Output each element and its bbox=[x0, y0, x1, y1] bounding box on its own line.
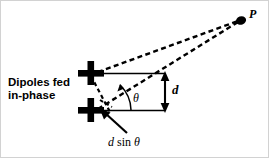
figure-container: Dipoles fed in-phase P d θ d sin θ bbox=[0, 0, 269, 158]
dipole-top bbox=[78, 61, 104, 85]
caption-dipoles-fed-in-phase: Dipoles fed in-phase bbox=[8, 76, 70, 102]
observation-point-P bbox=[235, 15, 248, 26]
label-point-p: P bbox=[249, 8, 256, 21]
label-angle-theta: θ bbox=[133, 92, 139, 105]
dashed-ray-bottom-dipole-to-P bbox=[98, 22, 238, 109]
caption-line-1: Dipoles fed bbox=[8, 76, 70, 89]
spacing-arrow-head-up bbox=[161, 71, 170, 81]
pointer-arrow-to-path-difference bbox=[100, 109, 128, 134]
label-spacing-d: d bbox=[172, 83, 179, 98]
angle-arc-arrowhead bbox=[117, 84, 124, 91]
spacing-arrow-head-down bbox=[161, 103, 170, 113]
path-diff-theta: θ bbox=[134, 135, 140, 149]
path-diff-sin: sin bbox=[117, 135, 131, 149]
double-headed-spacing-arrow bbox=[161, 71, 170, 113]
caption-line-2: in-phase bbox=[8, 89, 70, 102]
dashed-ray-top-dipole-to-P bbox=[98, 21, 238, 72]
dipole-bottom bbox=[78, 98, 104, 122]
label-path-difference-d-sin-theta: d sin θ bbox=[108, 136, 140, 149]
